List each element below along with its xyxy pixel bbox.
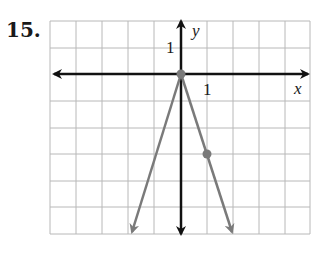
y-tick-label: 1	[166, 38, 175, 57]
coordinate-graph: 1 1 y x	[0, 0, 322, 254]
curve-left-branch	[132, 74, 181, 232]
vertex-point	[177, 70, 186, 79]
data-point	[203, 150, 212, 159]
x-tick-label: 1	[203, 80, 212, 99]
y-axis-label: y	[190, 21, 200, 40]
x-axis-label: x	[293, 79, 302, 98]
